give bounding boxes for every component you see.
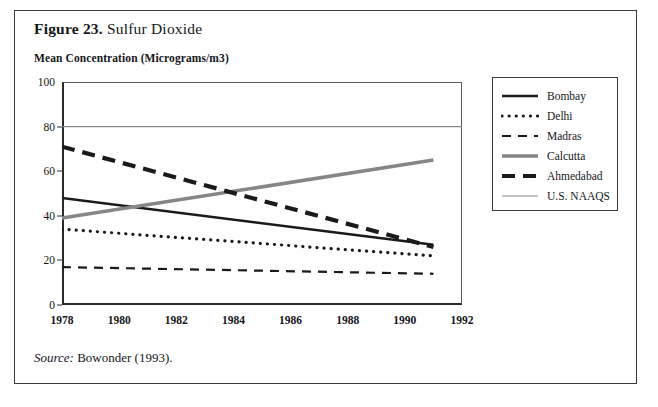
x-tick-label: 1990 [393,314,416,326]
series-line-madras [62,267,433,274]
y-tick-label: 0 [49,299,55,311]
legend-swatch-icon [501,190,539,202]
y-tick-mark [57,305,62,306]
plot-area: 0204060801001978198019821984198619881990… [62,82,462,305]
y-tick-label: 100 [38,76,55,88]
x-tick-label: 1984 [222,314,245,326]
figure-number: Figure 23. [34,20,103,37]
legend-swatch-icon [501,170,539,182]
series-line-bombay [62,198,433,245]
y-tick-mark [57,171,62,172]
y-tick-label: 80 [44,121,56,133]
y-tick-mark [57,260,62,261]
legend-swatch-icon [501,150,539,162]
y-tick-label: 40 [44,210,56,222]
legend-swatch-icon [501,110,539,122]
chart-lines [62,82,462,305]
y-axis-title: Mean Concentration (Micrograms/m3) [34,52,229,64]
y-tick-mark [57,215,62,216]
y-tick-mark [57,126,62,127]
x-tick-label: 1982 [165,314,188,326]
legend-item-madras[interactable]: Madras [493,126,617,146]
y-tick-label: 20 [44,254,56,266]
x-tick-label: 1992 [451,314,474,326]
figure-title-text: Sulfur Dioxide [107,20,202,37]
x-tick-label: 1988 [336,314,359,326]
legend-label: Delhi [547,110,573,122]
series-line-calcutta [62,160,433,218]
legend-item-u-s-naaqs[interactable]: U.S. NAAQS [493,186,617,206]
source-label: Source: [34,350,74,365]
legend-item-bombay[interactable]: Bombay [493,86,617,106]
legend-label: Madras [547,130,582,142]
legend-item-ahmedabad[interactable]: Ahmedabad [493,166,617,186]
legend-swatch-icon [501,90,539,102]
x-tick-label: 1986 [279,314,302,326]
page-title: Figure 23. Sulfur Dioxide [34,20,202,38]
legend-label: Calcutta [547,150,585,162]
legend-label: U.S. NAAQS [547,190,610,202]
source-text: Bowonder (1993). [77,350,172,365]
legend-item-delhi[interactable]: Delhi [493,106,617,126]
legend-label: Bombay [547,90,586,102]
x-tick-label: 1980 [108,314,131,326]
x-tick-label: 1978 [51,314,74,326]
legend-swatch-icon [501,130,539,142]
chart-legend: BombayDelhiMadrasCalcuttaAhmedabadU.S. N… [492,77,618,211]
figure-page: Figure 23. Sulfur Dioxide Mean Concentra… [0,0,658,407]
source-note: Source: Bowonder (1993). [34,350,173,366]
y-tick-label: 60 [44,165,56,177]
legend-item-calcutta[interactable]: Calcutta [493,146,617,166]
legend-label: Ahmedabad [547,170,603,182]
